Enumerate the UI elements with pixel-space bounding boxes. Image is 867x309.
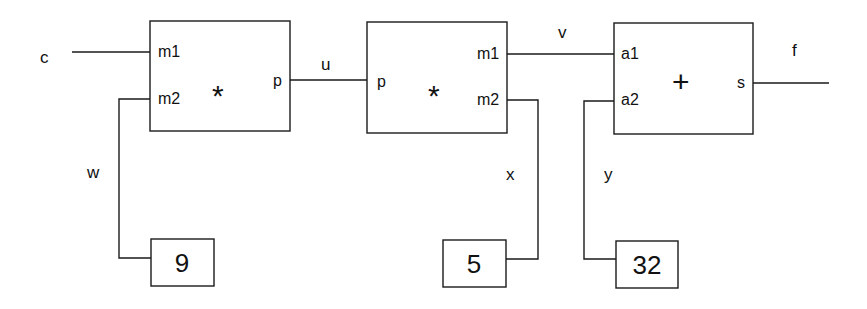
signal-label-f: f [792,41,797,60]
signal-label-x: x [506,165,515,184]
multiply-operator: * [428,79,440,112]
add-operator: + [672,65,690,98]
signal-label-c: c [40,48,49,67]
signal-label-u: u [321,55,330,74]
signal-label-w: w [86,163,100,182]
port-a1: a1 [621,45,639,62]
constant-value: 5 [467,249,481,279]
port-a2: a2 [621,91,639,108]
port-m1: m1 [158,43,180,60]
wire-w [119,99,151,258]
port-m2: m2 [158,90,180,107]
block-frame [150,21,290,131]
adder-block: a1 a2 s + [614,23,753,134]
constant-32: 32 [616,241,678,288]
port-p: p [377,73,386,90]
port-s: s [737,74,745,91]
constraint-diagram: m1 m2 p * p m1 m2 * a1 a2 s + 9 5 32 c w… [0,0,867,309]
constant-9: 9 [151,239,214,286]
multiply-operator: * [212,79,224,112]
signal-label-v: v [558,23,567,42]
block-frame [367,22,507,133]
port-m2: m2 [477,91,499,108]
constant-5: 5 [443,240,506,287]
constant-value: 9 [175,248,189,278]
signal-label-y: y [604,165,613,184]
port-p: p [273,72,282,89]
constant-value: 32 [633,250,662,280]
port-m1: m1 [477,45,499,62]
multiplier-block-2: p m1 m2 * [367,22,507,133]
multiplier-block-1: m1 m2 p * [150,21,290,131]
